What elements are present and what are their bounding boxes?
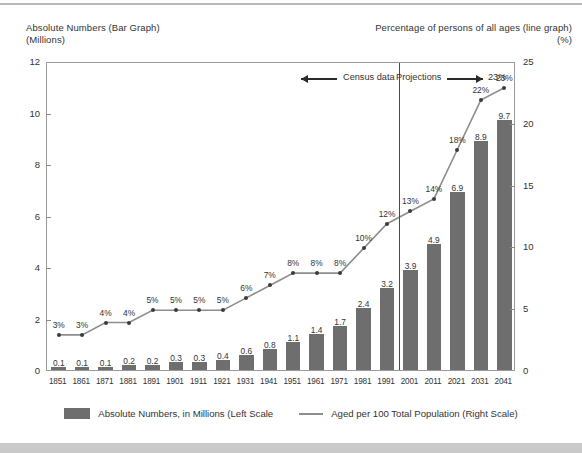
line-value-label: 4% bbox=[100, 308, 112, 318]
line-value-label: 8% bbox=[334, 258, 346, 268]
y-axis-tick-mark bbox=[46, 320, 51, 321]
x-axis-tick-label: 2011 bbox=[425, 377, 442, 386]
y-axis-tick-label: 8 bbox=[14, 159, 40, 170]
left-axis-header-line1: Absolute Numbers (Bar Graph) bbox=[26, 22, 160, 34]
x-axis-tick-label: 1871 bbox=[96, 377, 113, 386]
line-data-point bbox=[268, 283, 272, 287]
line-swatch-icon bbox=[299, 413, 323, 415]
line-value-label: 5% bbox=[146, 295, 158, 305]
x-axis-tick-label: 1961 bbox=[307, 377, 324, 386]
bottom-gray-band bbox=[0, 443, 582, 453]
x-axis-tick-label: 1891 bbox=[143, 377, 160, 386]
y2-axis-tick-mark bbox=[510, 247, 515, 248]
y2-axis-tick-label: 10 bbox=[523, 241, 549, 252]
line-data-point bbox=[244, 296, 248, 300]
x-axis-tick-label: 2001 bbox=[401, 377, 418, 386]
line-value-label: 8% bbox=[311, 258, 323, 268]
y-axis-tick-label: 4 bbox=[14, 262, 40, 273]
annotation-arrows bbox=[47, 73, 516, 97]
y2-axis-tick-label: 5 bbox=[523, 303, 549, 314]
line-value-label: 14% bbox=[426, 184, 443, 194]
bar-swatch-icon bbox=[64, 408, 90, 419]
line-value-label: 6% bbox=[240, 283, 252, 293]
line-series-path bbox=[47, 63, 516, 372]
y-axis-tick-mark bbox=[46, 114, 51, 115]
line-data-point bbox=[221, 308, 225, 312]
top-divider-rule bbox=[0, 3, 582, 5]
line-data-point bbox=[362, 246, 366, 250]
x-axis-tick-label: 1911 bbox=[190, 377, 207, 386]
y-axis-tick-label: 12 bbox=[14, 56, 40, 67]
line-value-label: 5% bbox=[217, 295, 229, 305]
line-data-point bbox=[338, 271, 342, 275]
x-axis-tick-label: 1861 bbox=[72, 377, 89, 386]
line-data-point bbox=[432, 197, 436, 201]
census-projection-divider bbox=[399, 63, 400, 370]
line-value-label: 5% bbox=[193, 295, 205, 305]
census-data-annotation: Census data bbox=[343, 72, 395, 82]
y2-axis-tick-mark bbox=[510, 124, 515, 125]
y2-axis-tick-label: 0 bbox=[523, 365, 549, 376]
line-value-label: 3% bbox=[53, 320, 65, 330]
y-axis-tick-label: 10 bbox=[14, 108, 40, 119]
y-axis-tick-mark bbox=[46, 217, 51, 218]
x-axis-tick-label: 1941 bbox=[260, 377, 277, 386]
x-axis-tick-label: 2041 bbox=[495, 377, 512, 386]
line-data-point bbox=[479, 98, 483, 102]
x-axis-tick-label: 2021 bbox=[448, 377, 465, 386]
x-axis-tick-label: 1881 bbox=[119, 377, 136, 386]
right-axis-header-line1: Percentage of persons of all ages (line … bbox=[375, 22, 572, 34]
line-data-point bbox=[408, 209, 412, 213]
right-axis-header-line2: (%) bbox=[375, 34, 572, 46]
x-axis-tick-label: 1901 bbox=[166, 377, 183, 386]
left-axis-header-line2: (Millions) bbox=[26, 34, 160, 46]
y-axis-tick-label: 2 bbox=[14, 314, 40, 325]
line-data-point bbox=[197, 308, 201, 312]
legend-item-line: Aged per 100 Total Population (Right Sca… bbox=[299, 408, 518, 419]
x-axis-tick-label: 1951 bbox=[284, 377, 301, 386]
x-axis-tick-label: 1971 bbox=[330, 377, 347, 386]
y2-axis-tick-mark bbox=[510, 309, 515, 310]
y-axis-tick-mark bbox=[46, 165, 51, 166]
line-data-point bbox=[57, 333, 61, 337]
legend-label-bars: Absolute Numbers, in Millions (Left Scal… bbox=[98, 408, 273, 419]
line-value-label: 4% bbox=[123, 308, 135, 318]
line-data-point bbox=[385, 222, 389, 226]
x-axis-tick-label: 1931 bbox=[237, 377, 254, 386]
chart-plot-area: 0.10.10.10.20.20.30.30.40.60.81.11.41.72… bbox=[46, 62, 515, 371]
y-axis-tick-label: 6 bbox=[14, 211, 40, 222]
chart-legend: Absolute Numbers, in Millions (Left Scal… bbox=[0, 408, 582, 419]
x-axis-tick-label: 1981 bbox=[354, 377, 371, 386]
y-axis-tick-mark bbox=[46, 268, 51, 269]
line-data-point bbox=[80, 333, 84, 337]
x-axis-tick-label: 1921 bbox=[213, 377, 230, 386]
projection-endpoint-label: 23% bbox=[488, 72, 506, 82]
y2-axis-tick-label: 15 bbox=[523, 180, 549, 191]
x-axis-tick-label: 1991 bbox=[377, 377, 394, 386]
line-data-point bbox=[151, 308, 155, 312]
right-axis-header: Percentage of persons of all ages (line … bbox=[375, 22, 572, 46]
line-data-point bbox=[315, 271, 319, 275]
line-value-label: 18% bbox=[449, 135, 466, 145]
line-value-label: 3% bbox=[76, 320, 88, 330]
line-value-label: 12% bbox=[379, 209, 396, 219]
line-data-point bbox=[104, 321, 108, 325]
x-axis-tick-label: 2031 bbox=[471, 377, 488, 386]
projections-annotation: Projections bbox=[396, 72, 441, 82]
line-data-point bbox=[291, 271, 295, 275]
line-value-label: 5% bbox=[170, 295, 182, 305]
line-value-label: 10% bbox=[355, 233, 372, 243]
y-axis-tick-label: 0 bbox=[14, 365, 40, 376]
legend-label-line: Aged per 100 Total Population (Right Sca… bbox=[331, 408, 518, 419]
y2-axis-tick-mark bbox=[510, 186, 515, 187]
line-value-label: 8% bbox=[287, 258, 299, 268]
chart-canvas: 0.10.10.10.20.20.30.30.40.60.81.11.41.72… bbox=[47, 63, 514, 370]
line-data-point bbox=[127, 321, 131, 325]
legend-item-bars: Absolute Numbers, in Millions (Left Scal… bbox=[64, 408, 273, 419]
left-axis-header: Absolute Numbers (Bar Graph) (Millions) bbox=[26, 22, 160, 46]
y2-axis-tick-label: 25 bbox=[523, 56, 549, 67]
line-value-label: 13% bbox=[402, 196, 419, 206]
x-axis-tick-label: 1851 bbox=[49, 377, 66, 386]
line-data-point bbox=[455, 148, 459, 152]
line-data-point bbox=[174, 308, 178, 312]
